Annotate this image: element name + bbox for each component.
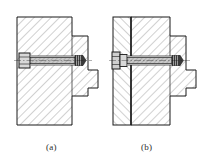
section-hatch-b-left (113, 17, 131, 125)
caption-subfigure-a: (a) (46, 142, 57, 152)
engineering-drawing-canvas (0, 0, 201, 167)
caption-subfigure-b: (b) (141, 142, 152, 152)
